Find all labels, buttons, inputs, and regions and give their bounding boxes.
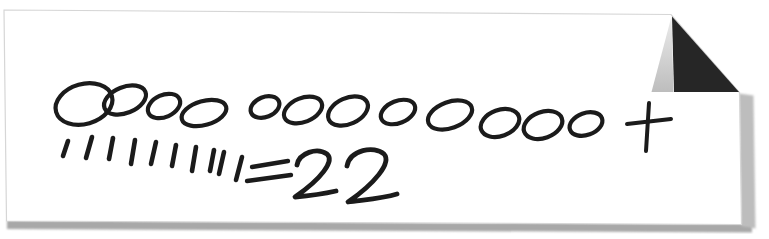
photographed-note (0, 0, 769, 239)
note-canvas (0, 0, 769, 239)
paper-sheet (4, 10, 742, 225)
